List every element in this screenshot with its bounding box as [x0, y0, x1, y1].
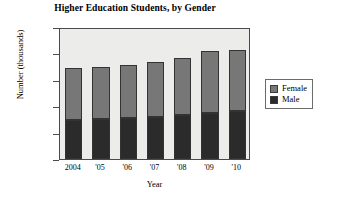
bar-segment-male	[92, 119, 109, 159]
chart-legend: Female Male	[265, 79, 313, 109]
bar-segment-female	[92, 67, 109, 120]
bar-group	[201, 51, 218, 159]
legend-swatch-male-icon	[270, 96, 278, 104]
legend-item-male: Male	[270, 94, 307, 105]
bar-segment-female	[65, 68, 82, 120]
y-tick-mark	[53, 160, 59, 161]
chart-title: Higher Education Students, by Gender	[0, 3, 270, 14]
x-tick-label: '06	[114, 163, 141, 172]
x-tick-label: '10	[223, 163, 250, 172]
x-tick-label: '05	[86, 163, 113, 172]
x-tick-label: '08	[168, 163, 195, 172]
bar-group	[120, 65, 137, 160]
legend-swatch-female-icon	[270, 85, 278, 93]
legend-item-female: Female	[270, 83, 307, 94]
bar-segment-male	[120, 118, 137, 159]
legend-label-female: Female	[282, 84, 307, 93]
bar-segment-female	[120, 65, 137, 119]
bar-segment-female	[174, 58, 191, 116]
bar-group	[174, 58, 191, 159]
bar-segment-male	[229, 111, 246, 159]
bar-segment-male	[174, 115, 191, 159]
bar-group	[147, 62, 164, 159]
y-axis-title: Number (thousands)	[16, 10, 25, 120]
bar-group	[229, 50, 246, 159]
x-axis-title: Year	[59, 180, 250, 189]
plot-area	[59, 28, 250, 160]
bar-segment-female	[147, 62, 164, 117]
bar-group	[65, 68, 82, 159]
bar-segment-male	[201, 113, 218, 159]
x-tick-label: '09	[195, 163, 222, 172]
chart-figure: Higher Education Students, by Gender 25,…	[0, 0, 337, 199]
x-tick-label: '07	[141, 163, 168, 172]
bar-segment-male	[65, 120, 82, 159]
bar-segment-male	[147, 117, 164, 159]
bar-group	[92, 67, 109, 159]
legend-label-male: Male	[282, 95, 299, 104]
bar-segment-female	[229, 50, 246, 112]
x-tick-label: 2004	[59, 163, 86, 172]
bars-layer	[60, 29, 249, 159]
bar-segment-female	[201, 51, 218, 113]
